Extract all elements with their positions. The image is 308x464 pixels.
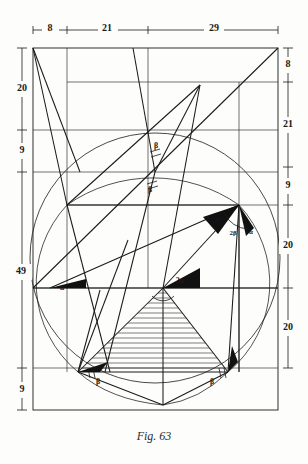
tri-left-side: [78, 288, 163, 372]
hatching-lines: [70, 293, 240, 368]
figure-container: 8 21 29 20 9 49 9: [0, 0, 308, 464]
line-center-down: [105, 172, 155, 372]
line-apex-left: [155, 85, 200, 172]
dimension-labels-left: 20 9 49 9: [10, 81, 32, 398]
line-apex-down: [163, 85, 200, 288]
construction-lines: [33, 48, 278, 405]
dim-label-top-8: 8: [48, 22, 53, 33]
line-br-to-apex: [163, 372, 228, 405]
angle-label-beta-upper: β: [154, 141, 158, 150]
dimension-group-top: [33, 26, 278, 34]
dim-label-right-20b: 20: [283, 321, 293, 332]
dim-label-right-9: 9: [286, 179, 291, 190]
angle-label-alpha-right-lower: α: [249, 228, 253, 236]
geometric-diagram: 8 21 29 20 9 49 9: [0, 0, 308, 464]
line-tl-to-center: [33, 48, 80, 172]
dim-label-left-49: 49: [16, 265, 26, 276]
line-center-up: [133, 48, 155, 172]
dim-label-left-9: 9: [20, 144, 25, 155]
tri-right-side: [163, 288, 228, 372]
angle-label-two-alpha: 2α: [176, 276, 185, 285]
dim-label-top-29: 29: [209, 22, 219, 33]
dim-label-left-9b: 9: [20, 383, 25, 394]
angle-label-alpha-left: α: [60, 283, 65, 292]
angle-label-beta-lower: β: [148, 185, 152, 194]
dimension-labels-right: 8 21 9 20 20: [279, 57, 298, 336]
dimension-group-left: [17, 48, 27, 410]
angle-label-beta-tri-left: β: [96, 377, 100, 386]
angle-label-alpha-right-upper: α: [216, 215, 220, 223]
dim-label-top-21: 21: [102, 22, 112, 33]
angle-label-beta-tri-right: β: [210, 377, 214, 386]
dim-label-left-20: 20: [17, 82, 27, 93]
line-node-to-apex: [67, 85, 200, 205]
dim-label-right-21: 21: [283, 118, 293, 129]
angle-label-two-beta: 2β: [229, 229, 237, 237]
dimension-labels-top: 8 21 29: [42, 21, 224, 37]
line-hl-up-2: [78, 290, 100, 372]
line-bl-to-apex: [78, 372, 163, 405]
line-hl-up-1: [78, 240, 128, 372]
construction-arcs: [36, 178, 270, 405]
line-tl-to-node: [33, 48, 67, 205]
frame-rectangle: [33, 48, 278, 410]
dim-label-right-20a: 20: [283, 239, 293, 250]
dim-label-right-8: 8: [286, 58, 291, 69]
figure-caption: Fig. 63: [136, 429, 172, 443]
